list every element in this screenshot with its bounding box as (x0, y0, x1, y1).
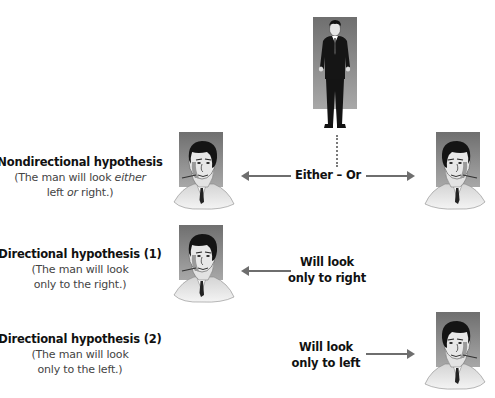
man-looking-right-portrait-icon (423, 312, 487, 390)
center-line2: only to right (272, 270, 382, 286)
center-line1: Will look (272, 254, 382, 270)
man-looking-right-portrait-icon (423, 132, 487, 210)
row-subtitle-line1: (The man will look either (0, 170, 165, 185)
row-subtitle-line2: left or right.) (0, 185, 165, 200)
dotted-divider-line (336, 135, 338, 167)
directional-hypothesis-1-label: Directional hypothesis (1) (The man will… (0, 247, 165, 292)
arrow-right-icon (366, 175, 408, 177)
man-looking-left-portrait-icon (172, 225, 236, 303)
row-title: Directional hypothesis (2) (0, 332, 165, 347)
man-looking-left-portrait-icon (172, 132, 236, 210)
center-line2: only to left (271, 355, 381, 371)
directional-hypothesis-2-label: Directional hypothesis (2) (The man will… (0, 332, 165, 377)
row-subtitle-line2: only to the left.) (0, 362, 165, 377)
nondirectional-hypothesis-label: Nondirectional hypothesis (The man will … (0, 155, 165, 200)
row-title: Directional hypothesis (1) (0, 247, 165, 262)
will-look-only-right-label: Will look only to right (272, 254, 382, 286)
row-subtitle-line2: only to the right.) (0, 277, 165, 292)
center-line1: Will look (271, 339, 381, 355)
walking-man-figure-icon (310, 17, 360, 132)
row-subtitle-line1: (The man will look (0, 347, 165, 362)
arrow-right-icon (366, 353, 408, 355)
will-look-only-left-label: Will look only to left (271, 339, 381, 371)
row-title: Nondirectional hypothesis (0, 155, 165, 170)
row-subtitle-line1: (The man will look (0, 262, 165, 277)
